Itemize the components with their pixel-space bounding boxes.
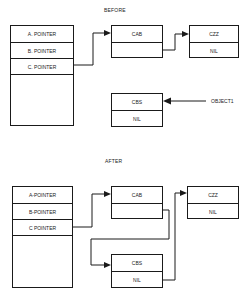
arrowhead-icon (182, 31, 189, 37)
before-cab-node: CAB (111, 25, 163, 58)
after-cbs-next: NIL (112, 272, 162, 288)
object1-label: OBJECT1 (211, 98, 234, 104)
after-cab-node: CAB (111, 186, 163, 219)
before-cab-next (112, 43, 162, 58)
after-b-pointer-row: B-POINTER (13, 204, 72, 220)
after-czz-value: CZZ (188, 187, 238, 204)
before-cbs-value: CBS (112, 94, 162, 111)
after-link-cpointer-cab (73, 194, 105, 227)
before-cbs-next: NIL (112, 111, 162, 127)
before-b-pointer-row: B. POINTER (11, 43, 73, 59)
after-cbs-node: CBS NIL (111, 254, 163, 288)
arrowhead-icon (104, 262, 111, 268)
before-a-pointer-row: A. POINTER (11, 26, 73, 43)
after-cbs-value: CBS (112, 255, 162, 272)
before-title: BEFORE (104, 7, 126, 13)
before-czz-value: CZZ (190, 26, 238, 43)
arrowhead-icon (180, 190, 187, 196)
after-pointer-table: A-POINTER B-POINTER C POINTER (12, 186, 73, 288)
after-title: AFTER (105, 158, 122, 164)
arrowhead-icon (104, 30, 111, 36)
before-link-cpointer-cab (74, 33, 105, 65)
arrowhead-icon (104, 191, 111, 197)
before-czz-next: NIL (190, 43, 238, 58)
after-czz-next: NIL (188, 204, 238, 219)
before-cbs-node: CBS NIL (111, 93, 163, 127)
before-c-pointer-row: C. POINTER (11, 59, 73, 75)
after-c-pointer-row: C POINTER (13, 220, 72, 236)
after-cab-value: CAB (112, 187, 162, 204)
after-cab-next (112, 204, 162, 219)
after-link-cbs-czz (163, 193, 181, 280)
arrowhead-icon (163, 98, 171, 105)
before-cab-value: CAB (112, 26, 162, 43)
before-czz-node: CZZ NIL (189, 25, 239, 58)
before-empty-row (11, 75, 73, 126)
after-empty-row (13, 236, 72, 288)
before-link-cab-czz (163, 34, 183, 50)
before-pointer-table: A. POINTER B. POINTER C. POINTER (10, 25, 74, 126)
after-czz-node: CZZ NIL (187, 186, 239, 219)
after-a-pointer-row: A-POINTER (13, 187, 72, 204)
